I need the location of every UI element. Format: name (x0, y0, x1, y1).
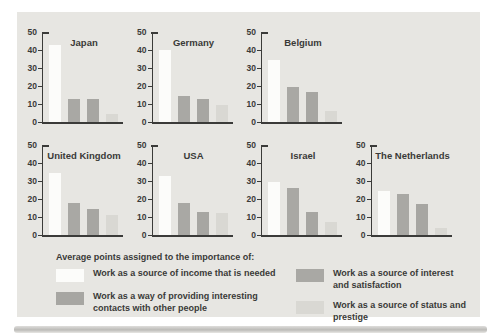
y-tick-mark (38, 163, 43, 164)
chart-title: Israel (258, 150, 348, 161)
income-swatch (56, 269, 84, 282)
charts-row-top: 01020304050Japan01020304050Germany010203… (23, 32, 352, 124)
bar-contacts (197, 212, 209, 235)
legend-item-interest: Work as a source of interest and satisfa… (296, 268, 468, 291)
bar-contacts (306, 212, 318, 235)
axis-top-tick (370, 145, 377, 147)
charts-row-bottom: 01020304050United Kingdom01020304050USA0… (23, 145, 461, 237)
y-tick-label: 0 (361, 230, 366, 240)
bar-status (106, 114, 118, 122)
y-tick-mark (257, 163, 262, 164)
bar-interest (287, 87, 299, 122)
y-tick-label: 50 (137, 27, 146, 37)
y-tick-label: 0 (142, 230, 147, 240)
bars-group (262, 60, 342, 122)
y-tick-label: 10 (137, 99, 146, 109)
plot-area: 01020304050Japan (42, 32, 123, 124)
y-tick-label: 20 (137, 194, 146, 204)
bar-income (378, 191, 390, 235)
bar-status (435, 228, 447, 235)
scan-shadow (14, 326, 487, 333)
bar-income (49, 45, 61, 122)
y-tick-label: 50 (28, 27, 37, 37)
y-tick-label: 30 (137, 63, 146, 73)
bars-group (372, 191, 452, 235)
y-tick-label: 0 (32, 117, 37, 127)
plot-area: 01020304050Belgium (261, 32, 342, 124)
axis-top-tick (261, 145, 268, 147)
y-tick-label: 50 (356, 140, 365, 150)
legend-columns: Work as a source of income that is neede… (56, 268, 476, 324)
chart-israel: 01020304050Israel (242, 145, 352, 237)
bar-status (325, 111, 337, 122)
legend-label: Work as a source of income that is neede… (93, 268, 275, 280)
y-tick-label: 30 (356, 176, 365, 186)
y-tick-label: 10 (137, 212, 146, 222)
y-tick-label: 20 (28, 194, 37, 204)
y-tick-label: 20 (137, 81, 146, 91)
axis-top-tick (151, 145, 158, 147)
chart-germany: 01020304050Germany (133, 32, 243, 124)
y-tick-mark (257, 50, 262, 51)
y-tick-label: 50 (247, 27, 256, 37)
bar-status (106, 215, 118, 235)
legend-item-contacts: Work as a way of providing interesting c… (56, 291, 296, 314)
bar-contacts (306, 92, 318, 122)
y-tick-mark (148, 163, 153, 164)
bar-interest (287, 188, 299, 235)
axis-top-tick (261, 32, 268, 34)
chart-belgium: 01020304050Belgium (242, 32, 352, 124)
y-tick-label: 20 (356, 194, 365, 204)
plot-area: 01020304050Germany (152, 32, 233, 124)
bar-interest (178, 96, 190, 122)
bars-group (43, 173, 123, 235)
bar-income (268, 182, 280, 235)
scanned-figure-page: 01020304050Japan01020304050Germany010203… (0, 0, 490, 335)
y-tick-label: 10 (28, 212, 37, 222)
y-tick-label: 20 (247, 81, 256, 91)
y-tick-label: 30 (28, 63, 37, 73)
y-tick-label: 40 (28, 45, 37, 55)
figure-panel: 01020304050Japan01020304050Germany010203… (17, 12, 480, 317)
legend-item-status: Work as a source of status and prestige (296, 300, 468, 323)
y-tick-mark (367, 163, 372, 164)
legend-column-2: Work as a source of interest and satisfa… (296, 268, 468, 324)
y-tick-label: 40 (28, 158, 37, 168)
y-tick-label: 50 (247, 140, 256, 150)
plot-area: 01020304050United Kingdom (42, 145, 123, 237)
legend-column-1: Work as a source of income that is neede… (56, 268, 296, 324)
y-tick-label: 40 (137, 158, 146, 168)
chart-the-netherlands: 01020304050The Netherlands (352, 145, 462, 237)
y-tick-label: 40 (356, 158, 365, 168)
plot-area: 01020304050Israel (261, 145, 342, 237)
bar-interest (178, 203, 190, 235)
y-tick-label: 30 (28, 176, 37, 186)
bar-contacts (416, 204, 428, 236)
bar-status (216, 105, 228, 122)
bars-group (262, 182, 342, 235)
y-tick-label: 30 (247, 63, 256, 73)
chart-usa: 01020304050USA (133, 145, 243, 237)
bar-income (159, 50, 171, 122)
legend-label: Work as a source of interest and satisfa… (333, 268, 468, 291)
y-tick-label: 0 (142, 117, 147, 127)
y-tick-label: 20 (247, 194, 256, 204)
y-tick-label: 30 (137, 176, 146, 186)
axis-top-tick (151, 32, 158, 34)
y-tick-mark (367, 181, 372, 182)
bar-income (159, 176, 171, 235)
chart-title: Germany (149, 37, 239, 48)
bar-income (49, 173, 61, 235)
chart-title: United Kingdom (39, 150, 129, 161)
y-tick-label: 10 (356, 212, 365, 222)
plot-area: 01020304050The Netherlands (371, 145, 452, 237)
legend-item-income: Work as a source of income that is neede… (56, 268, 296, 282)
legend-label: Work as a way of providing interesting c… (93, 291, 285, 314)
interest-swatch (296, 269, 324, 282)
y-tick-label: 10 (247, 212, 256, 222)
bar-contacts (87, 99, 99, 122)
y-tick-label: 40 (247, 45, 256, 55)
y-tick-label: 40 (247, 158, 256, 168)
status-swatch (296, 301, 324, 314)
legend-label: Work as a source of status and prestige (333, 300, 468, 323)
